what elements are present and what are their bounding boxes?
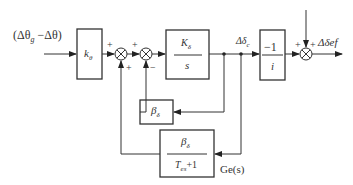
integrator-numerator: Kδ [181, 38, 191, 51]
output-label: Δδef [318, 37, 338, 48]
neg-one-numerator: −1 [264, 41, 277, 53]
ge-denominator: Tes+1 [175, 160, 197, 173]
sum3-sign-left: + [295, 40, 301, 50]
sum2-sign-bottom: − [150, 63, 156, 73]
ge-caption: Ge(s) [220, 164, 244, 175]
summing-junction-2 [140, 48, 152, 60]
sum1-sign-bottom: + [126, 63, 132, 73]
summing-junction-1 [115, 48, 127, 60]
sum3-sign-top: + [310, 40, 316, 50]
beta-label: βδ [151, 105, 160, 119]
input-label: (Δθg −Δθ) [13, 29, 62, 44]
k-theta-label: kθ [84, 48, 92, 62]
sum1-sign-top: + [107, 40, 113, 50]
sum2-sign-top: + [132, 40, 138, 50]
ge-numerator: βδ [181, 136, 190, 150]
inner-feedback-line [174, 54, 224, 112]
delta-delta-c-label: Δδc [236, 36, 250, 49]
beta-to-sum2-line [140, 61, 146, 112]
integrator-denominator: s [185, 60, 189, 71]
outer-feedback-line [215, 54, 241, 154]
i-denominator: i [271, 61, 274, 72]
